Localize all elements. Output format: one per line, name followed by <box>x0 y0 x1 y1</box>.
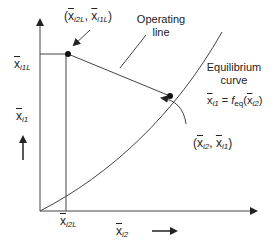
operating-line-pointer <box>120 35 146 68</box>
operating-line-label-2: line <box>136 27 186 38</box>
end-point-label: (xi2, xi1) <box>193 137 232 151</box>
equilibrium-equation: xi1 = feq(xi2) <box>207 95 262 108</box>
top-point-label: (xi2L, xi1L) <box>64 10 112 24</box>
operating-line-label-1: Operating <box>136 14 186 25</box>
sep: , <box>209 136 216 150</box>
equals: = <box>219 94 232 106</box>
end-point <box>167 93 173 99</box>
y-tick-label: xi1L <box>14 58 31 72</box>
x-tick-sub: i2L <box>66 220 77 229</box>
f-sub: eq <box>234 99 243 108</box>
y-axis-sub: i1 <box>22 115 28 124</box>
arg-close: ) <box>259 94 263 106</box>
y-axis-label: xi1 <box>16 110 28 124</box>
equilibrium-curve <box>40 32 222 211</box>
x-sub: i2L <box>74 15 85 24</box>
equilibrium-label-1: Equilibrium <box>204 62 264 73</box>
operating-line <box>68 54 170 96</box>
x-axis-sub: i2 <box>122 230 128 239</box>
y-sub: i1L <box>97 15 108 24</box>
paren-close: ) <box>108 9 112 23</box>
x-axis-label: xi2 <box>116 225 128 239</box>
equilibrium-label-2: curve <box>204 75 264 86</box>
y-tick-sub: i1L <box>20 63 31 72</box>
top-point-pointer-arrow <box>74 30 90 45</box>
end-point-curved-arrow <box>162 98 186 124</box>
top-point <box>65 51 71 57</box>
operating-line-label: Operating line <box>136 14 186 38</box>
equilibrium-curve-label: Equilibrium curve <box>204 62 264 86</box>
paren-close: ) <box>228 136 232 150</box>
x-tick-label: xi2L <box>60 215 77 229</box>
